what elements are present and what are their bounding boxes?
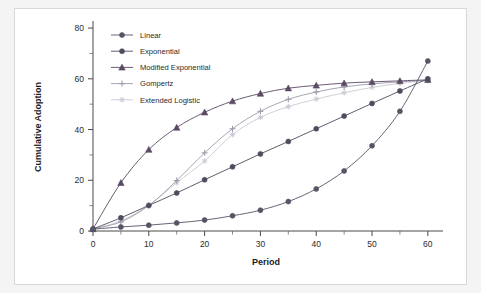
data-point-marker [370,143,375,148]
data-point-marker [314,186,319,191]
data-point-marker [118,215,123,220]
x-tick-label: 60 [423,239,433,249]
x-tick-label: 50 [367,239,377,249]
data-point-marker [342,168,347,173]
data-point-marker [370,101,375,106]
legend-marker-2 [120,49,125,54]
x-tick-label: 0 [91,239,96,249]
legend-label-5: Extended Logistic [140,96,200,105]
x-axis-title: Period [252,257,280,267]
legend-label-2: Exponential [140,47,180,56]
x-tick-label: 10 [144,239,154,249]
y-tick-label: 40 [75,125,85,135]
data-point-marker [342,114,347,119]
data-point-marker [174,124,180,130]
data-point-marker [202,218,207,223]
data-point-marker [230,164,235,169]
x-tick-label: 20 [200,239,210,249]
data-point-marker [174,220,179,225]
legend-marker-1 [120,33,125,38]
data-point-marker [314,126,319,131]
data-point-marker [201,109,207,115]
data-point-marker [258,151,263,156]
data-point-marker [118,180,124,186]
data-point-marker [230,213,235,218]
data-point-marker [174,190,179,195]
data-point-marker [425,76,430,81]
data-point-marker [258,208,263,213]
y-tick-label: 0 [79,226,84,236]
legend-label-1: Linear [140,31,162,40]
data-point-marker [286,139,291,144]
y-tick-label: 80 [75,23,85,33]
y-tick-label: 60 [75,74,85,84]
data-point-marker [286,199,291,204]
legend-label-3: Modified Exponential [140,63,211,72]
y-axis-title: Cumulative Adoption [33,82,43,172]
data-point-marker [397,88,402,93]
plot-card: 0204060800102030405060PeriodCumulative A… [14,8,467,285]
data-point-marker [146,203,151,208]
data-point-marker [202,177,207,182]
x-tick-label: 40 [311,239,321,249]
chart-figure: 0204060800102030405060PeriodCumulative A… [0,0,481,293]
data-point-marker [146,223,151,228]
data-point-marker [425,59,430,64]
data-point-marker [91,227,96,232]
chart-legend: LinearExponentialModified ExponentialGom… [111,31,211,105]
legend-label-4: Gompertz [140,79,174,88]
line-chart: 0204060800102030405060PeriodCumulative A… [15,9,466,284]
data-point-marker [397,109,402,114]
x-tick-label: 30 [256,239,266,249]
data-point-marker [118,224,123,229]
y-tick-label: 20 [75,175,85,185]
data-point-marker [229,98,235,104]
